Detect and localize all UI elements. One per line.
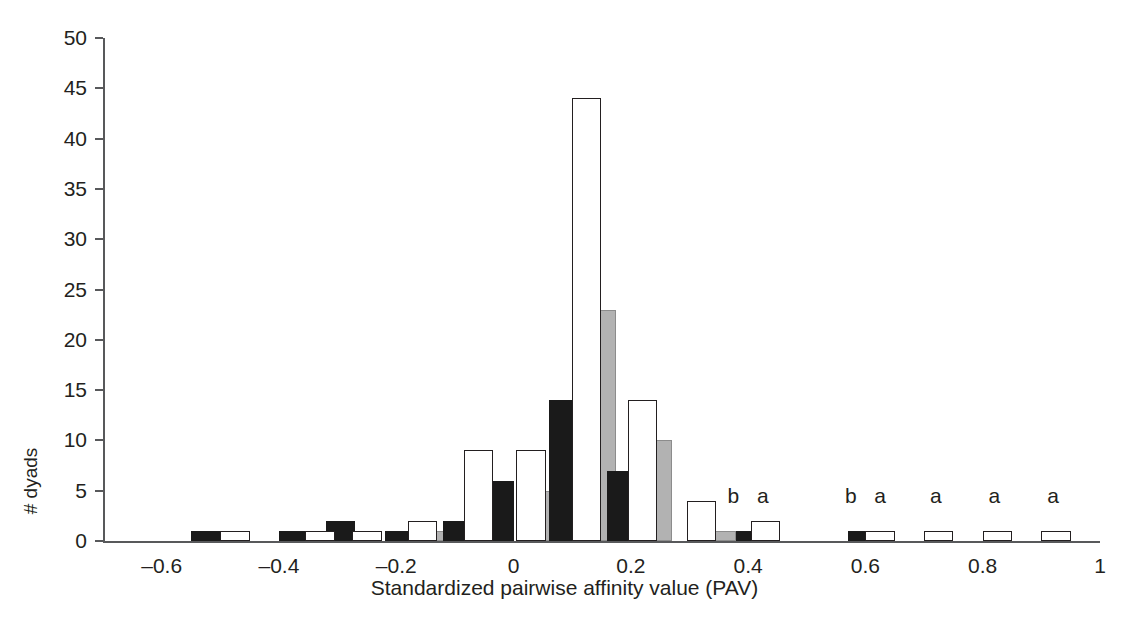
y-tick-label: 45: [41, 77, 87, 98]
x-axis-line: [103, 541, 1100, 543]
x-tick-label: 0.6: [825, 555, 905, 576]
significance-letter: a: [860, 485, 900, 506]
bar-black: [279, 531, 308, 541]
y-tick-label: 10: [41, 429, 87, 450]
histogram-figure: # dyads Standardized pairwise affinity v…: [0, 0, 1129, 643]
plot-area: 05101520253035404550 –0.6–0.4–0.200.20.4…: [103, 38, 1100, 541]
bar-white: [408, 521, 437, 541]
bar-white: [983, 531, 1012, 541]
x-tick-label: –0.4: [239, 555, 319, 576]
bar-white: [687, 501, 716, 541]
y-tick-label: 35: [41, 178, 87, 199]
y-tick-label: 20: [41, 329, 87, 350]
y-tick-label: 50: [41, 27, 87, 48]
y-tick-mark: [95, 188, 103, 190]
x-axis-title: Standardized pairwise affinity value (PA…: [0, 576, 1129, 600]
x-tick-label: 1: [1060, 555, 1129, 576]
y-tick-mark: [95, 339, 103, 341]
bar-white: [751, 521, 780, 541]
y-tick-mark: [95, 389, 103, 391]
bar-white: [1041, 531, 1070, 541]
page-edge-artifact: [0, 629, 1129, 643]
y-axis-line: [103, 38, 105, 541]
x-tick-label: –0.6: [122, 555, 202, 576]
bar-white: [352, 531, 381, 541]
x-tick-label: 0: [474, 555, 554, 576]
bar-white: [865, 531, 894, 541]
y-tick-mark: [95, 87, 103, 89]
y-tick-label: 15: [41, 379, 87, 400]
x-tick-label: –0.2: [356, 555, 436, 576]
significance-letter: a: [1033, 485, 1073, 506]
y-tick-label: 30: [41, 228, 87, 249]
x-tick-label: 0.8: [943, 555, 1023, 576]
bar-white: [516, 450, 545, 541]
y-axis-title-wrapper: # dyads: [14, 255, 44, 375]
bar-white: [305, 531, 334, 541]
y-tick-mark: [95, 238, 103, 240]
bar-white: [572, 98, 601, 541]
y-tick-label: 5: [41, 480, 87, 501]
bar-white: [924, 531, 953, 541]
x-tick-label: 0.4: [708, 555, 788, 576]
y-tick-mark: [95, 289, 103, 291]
y-tick-mark: [95, 138, 103, 140]
bar-white: [628, 400, 657, 541]
y-tick-mark: [95, 490, 103, 492]
y-tick-label: 40: [41, 128, 87, 149]
y-tick-mark: [95, 439, 103, 441]
y-tick-label: 0: [41, 530, 87, 551]
bar-white: [464, 450, 493, 541]
significance-letter: a: [974, 485, 1014, 506]
significance-letter: a: [916, 485, 956, 506]
x-tick-label: 0.2: [591, 555, 671, 576]
y-tick-mark: [95, 37, 103, 39]
significance-letter: a: [743, 485, 783, 506]
y-tick-mark: [95, 540, 103, 542]
bar-black: [191, 531, 220, 541]
y-tick-label: 25: [41, 279, 87, 300]
bar-white: [220, 531, 249, 541]
y-axis-title: # dyads: [20, 448, 42, 515]
